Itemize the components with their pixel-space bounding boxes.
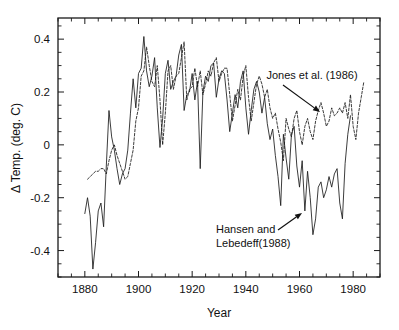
x-tick-label: 1920	[179, 283, 205, 295]
hansen-annotation-arrow-head	[295, 213, 302, 219]
hansen-annotation: Hansen andLebedeff(1988)	[216, 213, 302, 249]
hansen-annotation-line: Lebedeff(1988)	[216, 237, 290, 249]
x-tick-label: 1980	[340, 283, 366, 295]
x-tick-label: 1960	[287, 283, 313, 295]
y-tick-label: 0.2	[34, 86, 50, 98]
y-tick-label: 0.4	[34, 33, 51, 45]
y-tick-label: -0.4	[30, 245, 50, 257]
x-tick-label: 1880	[72, 283, 98, 295]
temperature-anomaly-chart: 188019001920194019601980-0.4-0.200.20.4 …	[0, 0, 399, 330]
y-tick-label: 0	[44, 139, 50, 151]
jones-annotation: Jones et al. (1986)	[266, 69, 357, 112]
jones-annotation-line: Jones et al. (1986)	[266, 69, 357, 81]
x-axis-title: Year	[207, 306, 231, 320]
hansen-annotation-line: Hansen and	[216, 223, 275, 235]
chart-figure: 188019001920194019601980-0.4-0.200.20.4 …	[0, 0, 399, 330]
x-tick-label: 1940	[233, 283, 259, 295]
x-tick-label: 1900	[126, 283, 152, 295]
annotations-layer: Jones et al. (1986)Hansen andLebedeff(19…	[216, 69, 358, 249]
jones-annotation-arrow-shaft	[283, 85, 314, 108]
hansen-annotation-arrow-shaft	[278, 217, 296, 230]
y-tick-label: -0.2	[30, 192, 50, 204]
y-axis-title: Δ Temp. (deg. C)	[9, 103, 23, 193]
series-jones	[88, 42, 364, 179]
